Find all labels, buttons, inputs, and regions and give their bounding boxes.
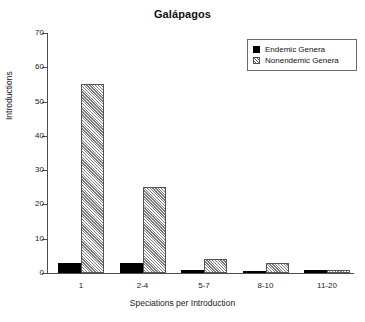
bar-endemic-2-4 (120, 263, 143, 273)
x-axis-tick-label: 1 (79, 281, 83, 291)
bar-endemic-11-20 (304, 270, 327, 273)
x-axis-title: Speciations per Introduction (0, 298, 365, 308)
legend-swatch-endemic-icon (253, 46, 260, 53)
legend-swatch-nonendemic-icon (253, 57, 260, 64)
y-axis-tick-label: 30 (35, 165, 44, 174)
y-axis-title: Introductions (4, 71, 14, 120)
x-axis-tick-label: 8-10 (257, 281, 273, 291)
y-axis-tick-label: 20 (35, 199, 44, 208)
y-axis-tick-label: 0 (40, 268, 44, 277)
y-axis-tick-label: 60 (35, 62, 44, 71)
x-axis-tick-label: 11-20 (317, 281, 337, 291)
bar-nonendemic-8-10 (266, 263, 289, 273)
y-axis-tick-label: 40 (35, 131, 44, 140)
y-axis-tick-label: 50 (35, 97, 44, 106)
bar-nonendemic-5-7 (204, 259, 227, 273)
x-axis-tick-label: 2-4 (137, 281, 149, 291)
legend-item-nonendemic: Nonendemic Genera (253, 55, 351, 66)
legend-label-nonendemic: Nonendemic Genera (265, 56, 339, 65)
x-axis-line (47, 273, 354, 274)
bar-endemic-1 (58, 263, 81, 273)
chart-legend: Endemic Genera Nonendemic Genera (247, 39, 357, 71)
legend-label-endemic: Endemic Genera (265, 45, 325, 54)
y-axis-line (47, 33, 48, 273)
bar-nonendemic-2-4 (143, 187, 166, 273)
bar-nonendemic-11-20 (327, 270, 350, 273)
y-axis-tick-label: 10 (35, 234, 44, 243)
chart-figure: Galápagos Introductions 010203040506070 … (0, 0, 365, 322)
y-axis-tick-label: 70 (35, 28, 44, 37)
chart-title: Galápagos (0, 8, 365, 20)
legend-item-endemic: Endemic Genera (253, 44, 351, 55)
x-axis-tick-label: 5-7 (198, 281, 210, 291)
bar-endemic-5-7 (181, 270, 204, 273)
bar-nonendemic-1 (81, 84, 104, 273)
bar-endemic-8-10 (243, 271, 266, 273)
